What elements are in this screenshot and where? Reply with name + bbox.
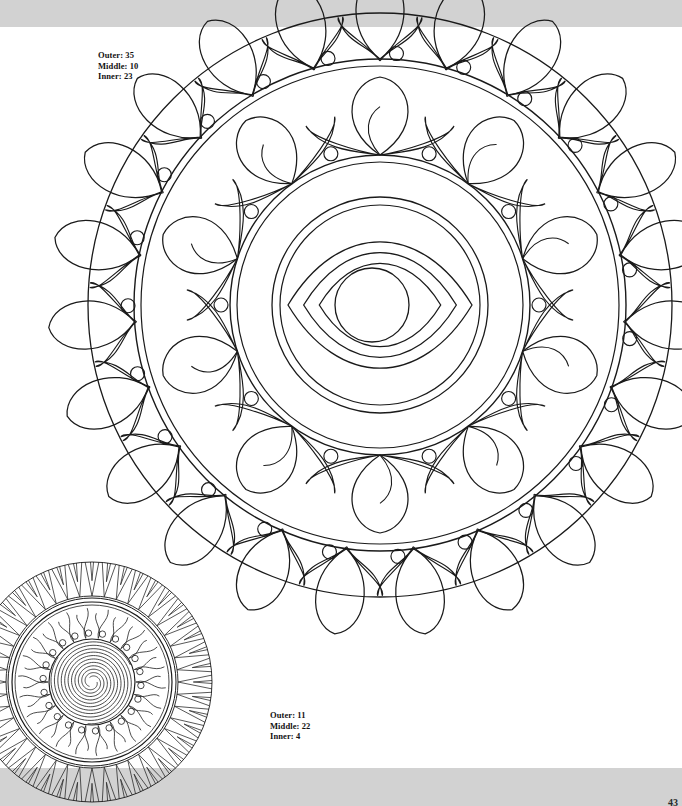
outer-petal [67,378,148,430]
middle-leaf [425,117,468,184]
small-mandala [0,532,242,806]
spike [128,570,148,604]
middle-leaf [292,117,335,184]
flame-dot [54,713,60,719]
spike-inner [134,572,143,590]
spike [36,570,56,604]
outer-leaf [338,17,380,61]
spike [0,729,20,753]
outer-dot [202,483,216,497]
flame-dot [78,727,84,733]
outer-dot [569,456,583,470]
spike-inner [184,631,202,640]
spike [177,692,211,706]
middle-petal-vein [263,426,292,465]
spike-inner [158,759,171,774]
flame-dot [40,675,46,681]
small-label-inner: Inner: 4 [270,731,310,742]
eye-outline [288,242,472,368]
small-label-middle: Middle: 22 [270,721,310,732]
flame-dot [106,725,112,731]
middle-dot [244,391,258,405]
flame-dot [112,636,118,642]
main-mandala-label: Outer: 35 Middle: 10 Inner: 23 [98,50,138,82]
outer-leaf [283,529,305,586]
middle-dot [324,449,338,463]
middle-petal-vein [191,244,237,263]
middle-petal [236,117,296,184]
spiral-arm [58,645,131,724]
flame-curl-mirror [23,681,48,688]
flame-dot [135,696,141,702]
outer-leaf [413,547,460,585]
spike [0,692,7,706]
spike-inner [158,590,171,605]
outer-petal [534,496,595,565]
flame-dot [59,640,65,646]
outer-leaf [141,138,202,144]
outer-leaf [446,39,498,70]
outer-leaf [299,547,346,585]
middle-dot [214,298,228,312]
spike-inner [41,572,50,590]
flame-dot [41,689,47,695]
middle-leaf [425,426,468,493]
spike [102,562,116,596]
outer-petal [625,301,682,349]
outer-leaf [90,255,141,288]
spike-inner-circle [6,596,178,768]
spike-inner [192,696,211,700]
spike-inner [169,748,184,761]
spike-inner [121,779,128,797]
spike [102,767,116,801]
flame-dot [50,649,56,655]
spike-inner [147,767,158,784]
spike-inner [26,767,37,784]
outer-petal [55,220,139,269]
inner-ring-circle [272,197,488,413]
middle-leaf [292,426,335,493]
main-label-outer: Outer: 35 [98,50,138,61]
spike-inner [184,724,202,733]
spike-inner [90,783,93,802]
spike-inner [0,748,15,761]
middle-petal [463,117,523,184]
outer-dot [391,549,405,563]
spike-inner [189,711,207,718]
outer-dot [157,168,171,182]
eye-outline [319,263,440,346]
spike-inner [41,774,50,792]
middle-dot [324,147,338,161]
spike [0,658,7,672]
spike-inner [134,774,143,792]
spike [68,562,82,596]
flame-dot [118,718,124,724]
middle-petal-vein [523,347,569,366]
outer-leaf [105,193,163,211]
middle-dot [244,205,258,219]
outer-dot [568,138,582,152]
outer-leaf [96,322,137,367]
outer-leaf [610,387,637,441]
outer-petal [84,143,161,198]
spike [36,760,56,794]
spike-inner [106,563,110,582]
outer-leaf [380,17,422,61]
middle-petal [523,336,598,393]
flame-dot [65,722,71,728]
outer-dot [389,47,403,61]
spike-inner [177,616,194,627]
spike [170,718,204,738]
outer-leaf [123,387,150,441]
spike-inner [57,566,64,584]
page-number: 43 [668,797,678,806]
middle-petal-ring [163,77,598,533]
spike [0,611,20,635]
flame-curl [96,726,100,756]
spike-inner [189,647,207,654]
spike-inner [90,562,93,581]
outer-petal [107,444,179,503]
outer-petal [356,0,404,59]
spike-inner [26,580,37,597]
outer-petal [199,20,256,95]
